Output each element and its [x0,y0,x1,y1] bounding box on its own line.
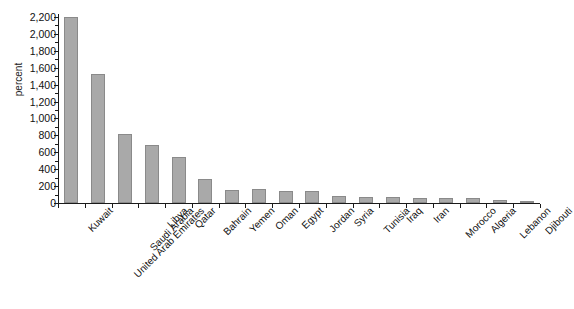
x-axis-category-label: Iran [431,205,451,225]
y-axis-tick-label: 1,200 [10,97,56,107]
x-axis-category-label: Yemen [247,205,277,235]
bar [332,196,346,203]
y-axis-tick-label: 2,200 [10,12,56,22]
y-axis-tick-label: 800 [10,130,56,140]
bar [118,134,132,203]
bar-series [58,17,540,203]
bar [198,179,212,203]
x-axis-category-labels: KuwaitUnited Arab EmiratesSaudi ArabiaLi… [58,205,548,309]
x-axis-category-label: Egypt [299,205,325,231]
x-axis-category-label: Oman [273,205,300,232]
bar [279,191,293,203]
bar [64,17,78,203]
bar [91,74,105,203]
bar [145,145,159,203]
y-axis-tick-labels: 02004006008001,0001,2001,4001,6001,8002,… [8,0,56,309]
x-axis-category-label: Bahrain [221,205,253,237]
y-axis-tick-label: 2,000 [10,29,56,39]
y-axis-tick-label: 600 [10,147,56,157]
bar [225,190,239,203]
bar [172,157,186,203]
bar [305,191,319,203]
y-axis-tick-label: 1,800 [10,46,56,56]
y-axis-tick-label: 1,000 [10,113,56,123]
bar [439,198,453,203]
bar [252,189,266,203]
y-axis-tick-label: 400 [10,164,56,174]
y-axis-tick-label: 1,600 [10,63,56,73]
bar [520,201,534,203]
x-axis-category-label: Syria [352,205,376,229]
bar [466,198,480,203]
bar [386,197,400,203]
bar [413,198,427,203]
y-axis-tick-label: 0 [10,198,56,208]
x-axis-category-label: Kuwait [86,205,115,234]
plot-area [58,17,540,203]
y-axis-tick-label: 200 [10,181,56,191]
y-axis-tick-label: 1,400 [10,80,56,90]
bar [493,200,507,203]
bar [359,197,373,203]
